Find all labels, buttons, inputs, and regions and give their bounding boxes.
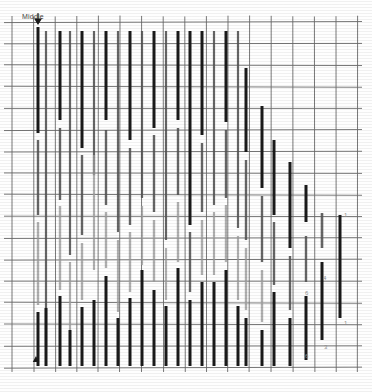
- annotation-number: 4: [323, 275, 326, 281]
- annotation-number: 6: [305, 353, 308, 359]
- graph-paper-grid: [0, 0, 372, 392]
- annotation-number: 6: [305, 290, 308, 296]
- annotation-number: 1: [344, 320, 347, 326]
- annotation-number: 3: [324, 344, 327, 350]
- middle-label: Middle: [22, 13, 44, 20]
- chart-figure: Middle 146136: [0, 0, 372, 392]
- bar-segments: [38, 27, 340, 366]
- annotation-number: 1: [344, 212, 347, 218]
